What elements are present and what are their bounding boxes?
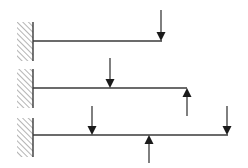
- cantilever-beams-diagram: [0, 0, 248, 168]
- fixed-support-hatch: [17, 69, 33, 108]
- fixed-support-hatch: [17, 22, 33, 61]
- arrow-down-icon: [106, 58, 115, 88]
- fixed-support-hatch: [17, 118, 33, 157]
- arrow-down-icon: [157, 10, 166, 41]
- arrow-up-icon: [183, 88, 192, 116]
- load-arrow-head: [157, 32, 166, 41]
- beams-layer: [17, 10, 232, 163]
- arrow-up-icon: [145, 135, 154, 163]
- arrow-down-icon: [223, 106, 232, 135]
- cantilever-beam: [17, 10, 166, 61]
- load-arrow-head: [106, 79, 115, 88]
- load-arrow-head: [145, 135, 154, 144]
- load-arrow-head: [88, 126, 97, 135]
- cantilever-beam: [17, 58, 192, 116]
- load-arrow-head: [183, 88, 192, 97]
- arrow-down-icon: [88, 106, 97, 135]
- load-arrow-head: [223, 126, 232, 135]
- cantilever-beam: [17, 106, 232, 163]
